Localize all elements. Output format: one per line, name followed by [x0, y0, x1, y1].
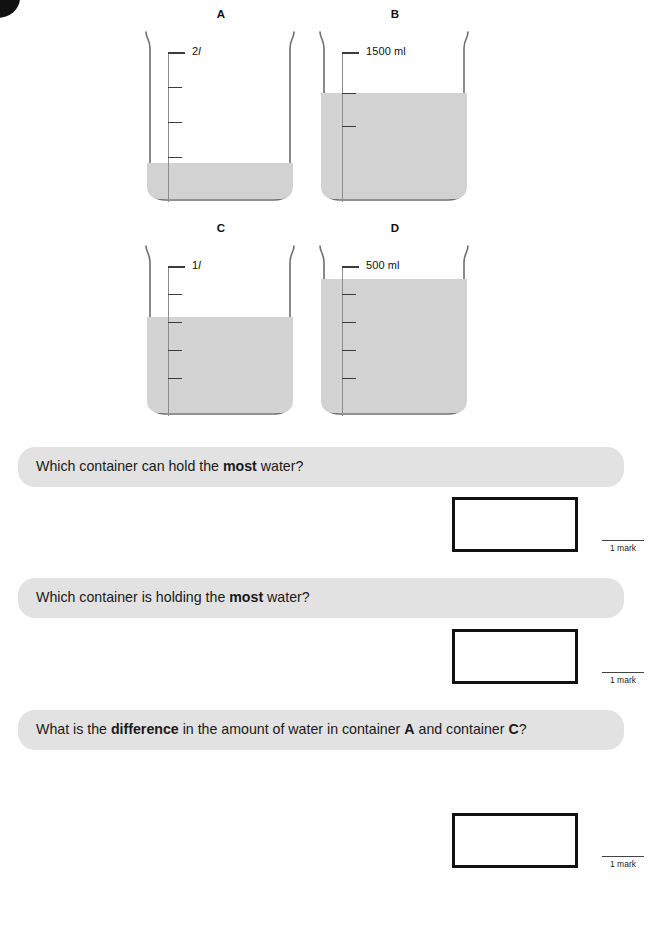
scale-axis — [342, 52, 343, 202]
question-1-emphasis: most — [223, 458, 257, 474]
scale-tick — [342, 93, 356, 94]
scale-axis — [168, 266, 169, 416]
question-3-prefix: What is the — [36, 721, 111, 737]
container-b-label: B — [300, 8, 490, 20]
container-c-scale-caption: 1l — [192, 259, 201, 271]
question-3-emphasis: difference — [111, 721, 179, 737]
container-b-scale: 1500 ml — [342, 30, 382, 202]
container-a-scale-caption: 2l — [192, 45, 201, 57]
question-3-ref-a: A — [404, 721, 414, 737]
scale-tick — [168, 294, 182, 295]
container-d-scale: 500 ml — [342, 244, 382, 416]
scale-tick — [342, 266, 359, 268]
container-b: B 1500 ml — [300, 8, 490, 208]
mark-label: 1 mark — [610, 859, 636, 869]
question-2-answer-box[interactable] — [452, 629, 578, 684]
scale-tick — [168, 157, 182, 158]
scale-tick — [342, 294, 356, 295]
mark-rule — [602, 856, 644, 857]
container-b-scale-caption: 1500 ml — [366, 45, 406, 57]
scale-tick — [342, 350, 356, 351]
question-1-answer-box[interactable] — [452, 497, 578, 552]
question-1-prefix: Which container can hold the — [36, 458, 223, 474]
container-a-label: A — [126, 8, 316, 20]
scale-tick — [168, 350, 182, 351]
scale-tick — [168, 122, 182, 123]
mark-rule — [602, 672, 644, 673]
container-c-scale: 1l — [168, 244, 208, 416]
scale-tick — [168, 87, 182, 88]
container-b-beaker: 1500 ml — [318, 30, 470, 202]
question-1-suffix: water? — [257, 458, 304, 474]
container-a: A 2l — [126, 8, 316, 208]
scale-tick — [168, 52, 185, 54]
container-d-label: D — [300, 222, 490, 234]
mark-label: 1 mark — [610, 543, 636, 553]
question-3-answer-box[interactable] — [452, 813, 578, 868]
scale-tick — [168, 378, 182, 379]
scale-tick — [342, 322, 356, 323]
question-3-text: What is the difference in the amount of … — [18, 710, 624, 750]
scale-axis — [342, 266, 343, 416]
scale-tick — [168, 266, 185, 268]
question-3-ref-b: C — [508, 721, 518, 737]
mark-rule — [602, 540, 644, 541]
scale-tick — [342, 52, 359, 54]
question-2-suffix: water? — [263, 589, 310, 605]
scale-axis — [168, 52, 169, 202]
question-3-mark: 1 mark — [600, 856, 646, 869]
mark-label: 1 mark — [610, 675, 636, 685]
question-3-suffix: in the amount of water in container — [179, 721, 405, 737]
scale-tick — [342, 126, 356, 127]
question-2-text: Which container is holding the most wate… — [18, 578, 624, 618]
container-c: C 1l — [126, 222, 316, 422]
question-1-mark: 1 mark — [600, 540, 646, 553]
container-a-beaker: 2l — [144, 30, 296, 202]
container-d-beaker: 500 ml — [318, 244, 470, 416]
containers-diagram: A 2l B — [0, 0, 658, 425]
question-3-tail: ? — [519, 721, 527, 737]
question-2-prefix: Which container is holding the — [36, 589, 229, 605]
container-c-beaker: 1l — [144, 244, 296, 416]
container-d-scale-caption: 500 ml — [366, 259, 400, 271]
scale-tick — [342, 378, 356, 379]
container-a-scale: 2l — [168, 30, 208, 202]
question-1-text: Which container can hold the most water? — [18, 447, 624, 487]
container-c-label: C — [126, 222, 316, 234]
question-2-mark: 1 mark — [600, 672, 646, 685]
question-3-mid: and container — [415, 721, 509, 737]
question-2-emphasis: most — [229, 589, 263, 605]
scale-tick — [168, 322, 182, 323]
container-d: D 500 ml — [300, 222, 490, 422]
